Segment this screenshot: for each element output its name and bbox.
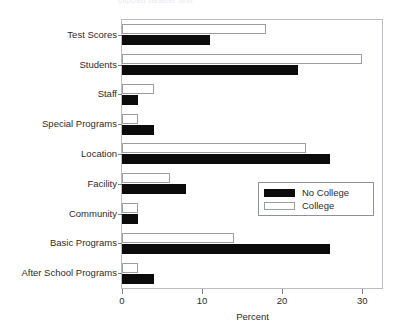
y-axis-label: Test Scores (67, 30, 117, 40)
bar-college (122, 173, 170, 183)
bar-no-college (122, 35, 210, 45)
bar-group: After School Programs (122, 258, 383, 288)
legend-swatch-no-college-icon (264, 189, 295, 197)
bar-group: Test Scores (122, 20, 383, 50)
y-axis-tick (118, 154, 122, 155)
y-axis-label: Special Programs (42, 119, 117, 129)
bar-group: Location (122, 139, 383, 169)
legend-label-college: College (302, 200, 334, 211)
bar-college (122, 143, 306, 153)
bar-no-college (122, 65, 298, 75)
y-axis-label: Staff (98, 89, 117, 99)
x-axis-tick-label: 30 (357, 295, 368, 306)
legend-item-college: College (264, 199, 368, 212)
bar-no-college (122, 274, 154, 284)
y-axis-tick (118, 124, 122, 125)
bar-no-college (122, 95, 138, 105)
y-axis-label: Location (81, 149, 117, 159)
x-axis-tick-label: 0 (119, 295, 124, 306)
x-axis-ticks: 0102030 (122, 289, 383, 294)
bar-no-college (122, 244, 330, 254)
y-axis-tick (118, 243, 122, 244)
bar-no-college (122, 125, 154, 135)
x-axis-tick (122, 289, 123, 294)
y-axis-tick (118, 184, 122, 185)
y-axis-label: Community (69, 209, 117, 219)
x-axis-tick (282, 289, 283, 294)
bar-college (122, 203, 138, 213)
bar-college (122, 263, 138, 273)
bar-group: Staff (122, 80, 383, 110)
bar-group: Basic Programs (122, 228, 383, 258)
bar-no-college (122, 154, 330, 164)
legend-item-no-college: No College (264, 186, 368, 199)
legend-swatch-college-icon (264, 202, 295, 210)
y-axis-tick (118, 35, 122, 36)
x-axis-tick-label: 20 (277, 295, 288, 306)
bar-chart: clipped header text Test ScoresStudentsS… (0, 0, 399, 331)
y-axis-tick (118, 214, 122, 215)
x-axis-tick (202, 289, 203, 294)
x-axis-title: Percent (122, 311, 383, 322)
y-axis-tick (118, 94, 122, 95)
bar-group: Students (122, 50, 383, 80)
bar-college (122, 233, 234, 243)
y-axis-tick (118, 273, 122, 274)
bar-no-college (122, 184, 186, 194)
bar-college (122, 114, 138, 124)
clipped-title-remnant: clipped header text (118, 0, 258, 4)
y-axis-label: Facility (87, 179, 117, 189)
bar-no-college (122, 214, 138, 224)
legend-label-no-college: No College (302, 187, 349, 198)
y-axis-label: After School Programs (21, 268, 117, 278)
y-axis-label: Basic Programs (50, 238, 117, 248)
bar-college (122, 24, 266, 34)
x-axis-tick (362, 289, 363, 294)
bar-college (122, 54, 362, 64)
plot-area: Test ScoresStudentsStaffSpecial Programs… (122, 20, 383, 288)
y-axis-label: Students (80, 60, 118, 70)
x-axis-tick-label: 10 (197, 295, 208, 306)
chart-legend: No College College (258, 182, 374, 216)
bar-group: Special Programs (122, 109, 383, 139)
bar-college (122, 84, 154, 94)
y-axis-tick (118, 65, 122, 66)
